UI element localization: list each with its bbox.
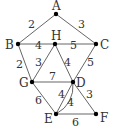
edge-weight-C-D: 5 [87, 56, 94, 69]
edge-weight-H-G: 3 [35, 56, 42, 69]
vertex-D [71, 80, 75, 84]
edge-weight-G-D: 7 [49, 70, 56, 83]
edge-weight-B-H: 4 [35, 39, 42, 52]
edge-weight-D-E: 4 [58, 88, 65, 101]
vertex-F [94, 112, 98, 116]
vertex-G [30, 80, 34, 84]
weighted-graph-diagram: 23452345764436 ABHCGDEF [0, 0, 114, 128]
vertex-label-A: A [51, 0, 61, 13]
edge-weight-A-C: 3 [78, 18, 85, 31]
vertex-label-D: D [76, 76, 86, 90]
edge-weight-H-D: 4 [64, 56, 71, 69]
vertex-label-F: F [100, 111, 108, 125]
edge-weight-D-F: 3 [86, 88, 93, 101]
edge-weight-E-F: 6 [72, 116, 79, 128]
edge-weight-D-E: 4 [67, 96, 74, 109]
vertex-label-B: B [5, 38, 14, 52]
vertex-label-E: E [44, 112, 53, 126]
vertex-E [54, 112, 58, 116]
vertex-B [16, 42, 20, 46]
edge-weight-B-G: 2 [16, 58, 23, 71]
edge-weight-H-C: 5 [70, 39, 77, 52]
edge-weight-A-B: 2 [28, 18, 35, 31]
vertex-label-G: G [19, 76, 29, 90]
vertex-label-H: H [51, 29, 61, 43]
edge-weight-G-E: 6 [35, 94, 42, 107]
vertex-label-C: C [100, 38, 109, 52]
vertex-C [94, 42, 98, 46]
